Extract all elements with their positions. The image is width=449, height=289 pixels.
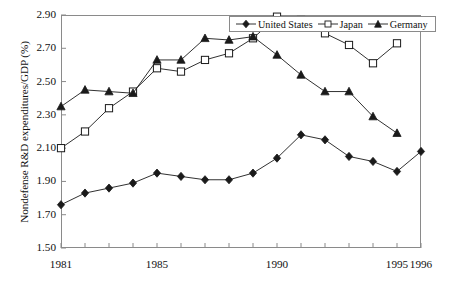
y-tick-label: 1.70: [16, 208, 56, 220]
y-tick-label: 2.90: [16, 8, 56, 20]
legend-marker-filled-diamond: [235, 18, 257, 30]
data-point: [393, 129, 401, 137]
data-point: [249, 169, 256, 177]
data-point: [321, 136, 328, 144]
y-tick-label: 2.70: [16, 41, 56, 53]
chart-canvas: [0, 0, 449, 289]
legend-label-japan: Japan: [339, 19, 365, 30]
y-tick-label: 1.90: [16, 174, 56, 186]
data-point: [297, 71, 305, 79]
data-point: [417, 147, 424, 155]
data-point: [57, 201, 64, 209]
data-point: [201, 176, 208, 184]
x-tick-label: 1990: [254, 258, 300, 270]
data-point: [81, 189, 88, 197]
series-lines: [57, 13, 425, 209]
x-tick-label: 1996: [398, 258, 444, 270]
series-japan: [57, 13, 400, 152]
data-point: [153, 169, 160, 177]
data-point: [105, 105, 112, 112]
legend-item-germany[interactable]: Germany: [367, 18, 430, 30]
legend-item-japan[interactable]: Japan: [317, 18, 365, 30]
axis-ticks: [61, 15, 421, 248]
data-point: [153, 65, 160, 72]
data-point: [129, 179, 136, 187]
legend-item-united-states[interactable]: United States: [235, 18, 315, 30]
y-tick-label: 2.10: [16, 141, 56, 153]
data-point: [369, 60, 376, 67]
data-point: [177, 172, 184, 180]
data-point: [345, 152, 352, 160]
data-point: [345, 41, 352, 48]
data-point: [105, 184, 112, 192]
y-tick-label: 2.30: [16, 108, 56, 120]
legend-marker-filled-triangle: [367, 18, 389, 30]
data-point: [393, 167, 400, 175]
data-point: [57, 102, 65, 110]
chart-legend: United States Japan Germany: [229, 16, 436, 32]
data-point: [393, 40, 400, 47]
data-point: [225, 50, 232, 57]
data-point: [321, 87, 329, 95]
legend-label-united-states: United States: [257, 19, 315, 30]
data-point: [369, 157, 376, 165]
y-tick-label: 1.50: [16, 241, 56, 253]
data-point: [81, 128, 88, 135]
series-united-states: [57, 131, 424, 209]
data-point: [177, 68, 184, 75]
legend-label-germany: Germany: [389, 19, 430, 30]
data-point: [201, 56, 208, 63]
data-point: [57, 145, 64, 152]
data-point: [153, 56, 161, 64]
data-point: [345, 87, 353, 95]
x-tick-label: 1981: [38, 258, 84, 270]
chart-figure: Nondefense R&D expenditures/GDP (%) 1.50…: [0, 0, 449, 289]
data-point: [81, 86, 89, 94]
data-point: [273, 51, 281, 59]
data-point: [201, 34, 209, 42]
data-point: [225, 176, 232, 184]
y-tick-label: 2.50: [16, 75, 56, 87]
legend-marker-open-square: [317, 18, 339, 30]
x-tick-label: 1985: [134, 258, 180, 270]
